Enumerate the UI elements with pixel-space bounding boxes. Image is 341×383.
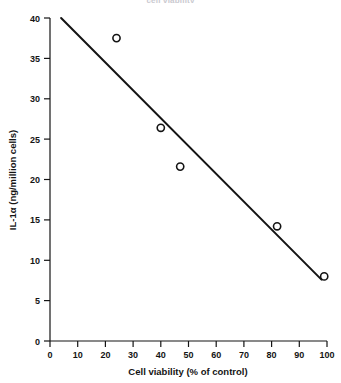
data-point-markers — [113, 35, 328, 281]
x-tick-label-0: 0 — [47, 350, 52, 360]
y-tick-label-5: 5 — [35, 296, 40, 306]
y-tick-label-25: 25 — [30, 135, 40, 145]
x-tick-label-20: 20 — [100, 350, 110, 360]
y-tick-label-20: 20 — [30, 175, 40, 185]
data-point — [321, 273, 328, 280]
figure-container: cell viability 40 35 30 25 20 15 10 5 0 — [0, 0, 341, 383]
y-tick-label-35: 35 — [30, 54, 40, 64]
x-tick-label-70: 70 — [239, 350, 249, 360]
x-tick-label-80: 80 — [267, 350, 277, 360]
y-axis-title: IL-1α (ng/million cells) — [7, 130, 18, 230]
y-tick-marks — [44, 18, 50, 341]
y-tick-label-30: 30 — [30, 94, 40, 104]
x-tick-label-40: 40 — [156, 350, 166, 360]
data-point — [113, 35, 120, 42]
data-point — [157, 124, 164, 131]
scatter-plot: 40 35 30 25 20 15 10 5 0 0 10 20 30 40 5… — [0, 0, 341, 383]
x-tick-label-30: 30 — [128, 350, 138, 360]
data-point — [177, 163, 184, 170]
x-tick-label-100: 100 — [319, 350, 334, 360]
x-tick-marks — [50, 341, 327, 347]
x-tick-label-50: 50 — [183, 350, 193, 360]
x-tick-label-60: 60 — [211, 350, 221, 360]
y-tick-label-40: 40 — [30, 14, 40, 24]
data-point — [274, 223, 281, 230]
x-tick-label-10: 10 — [73, 350, 83, 360]
x-axis-title: Cell viability (% of control) — [128, 366, 247, 377]
y-tick-label-0: 0 — [35, 337, 40, 347]
y-tick-label-15: 15 — [30, 215, 40, 225]
x-tick-label-90: 90 — [294, 350, 304, 360]
regression-line — [61, 18, 321, 280]
y-tick-label-10: 10 — [30, 256, 40, 266]
